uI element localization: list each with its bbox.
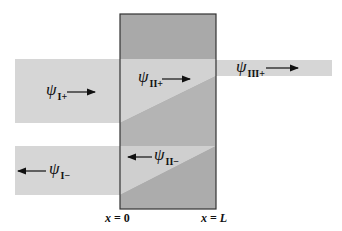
- psi-subscript: I−: [61, 170, 71, 181]
- psi-ii-minus-label: ψII−: [154, 145, 179, 167]
- psi-i-minus-label: ψI−: [49, 159, 70, 181]
- psi-symbol: ψ: [236, 57, 247, 76]
- psi-subscript: II−: [166, 156, 179, 167]
- region-i-incident-band: [15, 59, 120, 123]
- psi-subscript: II+: [150, 78, 163, 89]
- psi-symbol: ψ: [46, 80, 57, 99]
- psi-iii-plus-label: ψIII+: [236, 57, 265, 79]
- psi-subscript: III+: [248, 68, 265, 79]
- psi-subscript: I+: [58, 91, 68, 102]
- equals-sign: =: [111, 211, 124, 225]
- boundary-value: 0: [124, 211, 130, 225]
- boundary-label-x0: x = 0: [105, 211, 130, 226]
- psi-symbol: ψ: [138, 67, 149, 86]
- barrier-diagram: [0, 0, 342, 231]
- boundary-value: L: [220, 211, 227, 225]
- psi-ii-plus-label: ψII+: [138, 67, 163, 89]
- equals-sign: =: [207, 211, 220, 225]
- psi-symbol: ψ: [49, 159, 60, 178]
- boundary-label-xl: x = L: [201, 211, 227, 226]
- psi-i-plus-label: ψI+: [46, 80, 67, 102]
- psi-symbol: ψ: [154, 145, 165, 164]
